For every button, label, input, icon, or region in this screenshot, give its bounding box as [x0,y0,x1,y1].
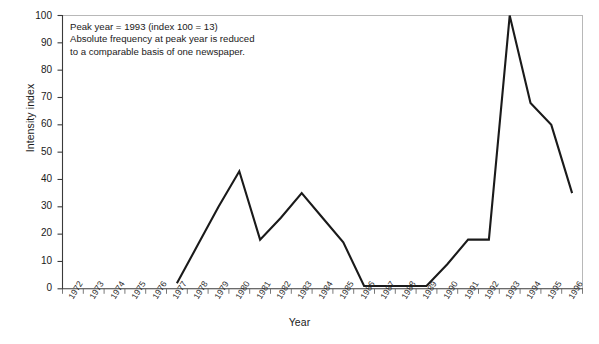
y-tick-label: 40 [26,174,52,184]
y-tick-label: 0 [26,283,52,293]
y-axis-tick-labels: 100 90 80 70 60 50 40 30 20 10 0 [22,0,52,300]
y-tick-label: 50 [26,147,52,157]
y-tick-label: 90 [26,38,52,48]
x-axis-title: Year [0,316,599,328]
y-tick-label: 60 [26,119,52,129]
y-tick-label: 20 [26,228,52,238]
y-tick-label: 10 [26,256,52,266]
y-tick-label: 70 [26,92,52,102]
intensity-index-line-chart: Intensity index 100 90 80 70 60 50 40 30… [0,0,599,344]
y-tick-label: 30 [26,201,52,211]
y-tick-label: 100 [26,11,52,21]
peak-year-annotation: Peak year = 1993 (index 100 = 13) Absolu… [70,21,255,58]
y-tick-label: 80 [26,65,52,75]
